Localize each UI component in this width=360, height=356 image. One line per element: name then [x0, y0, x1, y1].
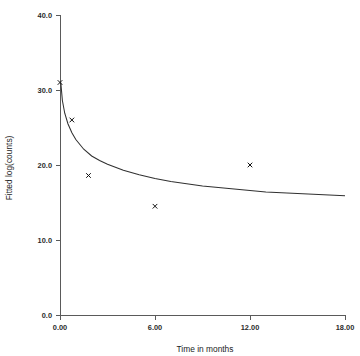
data-point-marker — [70, 118, 75, 123]
y-tick-label: 40.0 — [38, 11, 52, 20]
x-tick-label: 0.00 — [53, 323, 67, 332]
data-point-marker — [153, 204, 158, 209]
x-tick-label: 6.00 — [148, 323, 162, 332]
y-tick-label: 10.0 — [38, 236, 52, 245]
data-point-marker — [86, 173, 91, 178]
data-point-markers — [58, 80, 253, 208]
y-axis-title: Fitted log(counts) — [4, 135, 14, 200]
x-tick-label: 18.00 — [336, 323, 355, 332]
x-axis-title: Time in months — [177, 344, 234, 354]
data-point-marker — [248, 163, 253, 168]
chart-figure: 0.010.020.030.040.0 0.006.0012.0018.00 T… — [0, 0, 360, 356]
plot-area: 0.010.020.030.040.0 0.006.0012.0018.00 T… — [0, 0, 360, 356]
y-tick-label: 20.0 — [38, 161, 52, 170]
x-tick-label: 12.00 — [241, 323, 260, 332]
axes-group — [60, 15, 345, 315]
fitted-curve — [61, 83, 345, 196]
y-axis-ticks: 0.010.020.030.040.0 — [38, 11, 60, 320]
y-tick-label: 30.0 — [38, 86, 52, 95]
x-axis-ticks: 0.006.0012.0018.00 — [53, 315, 354, 332]
y-tick-label: 0.0 — [42, 311, 52, 320]
